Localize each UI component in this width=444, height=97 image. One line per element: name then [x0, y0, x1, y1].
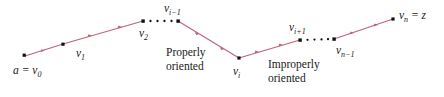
- caption-improperly-oriented: Improperly oriented: [268, 58, 320, 85]
- vertex-label-vnm1: vn−1: [336, 45, 355, 57]
- path-vector-graphic: [0, 0, 444, 97]
- dotted-segment-v2-vim1: [149, 20, 172, 22]
- caption-improperly-oriented-line1: Improperly: [268, 58, 320, 72]
- vertex-dot-vn: [391, 17, 394, 20]
- caption-improperly-oriented-line2: oriented: [268, 72, 320, 86]
- vertex-dot-vim1: [176, 19, 179, 22]
- vertex-label-vn: vn = z: [399, 10, 426, 22]
- vertex-dot-v0: [23, 54, 26, 57]
- vertex-label-v0: a = v0: [13, 65, 41, 77]
- segment-v1-v2: [63, 21, 143, 44]
- vertex-label-vip1: vi+1: [289, 22, 306, 34]
- vertex-dot-v1: [61, 43, 64, 46]
- vertex-label-vi: vi: [233, 66, 240, 78]
- vertex-dot-vnm1: [332, 37, 335, 40]
- caption-properly-oriented: Properly oriented: [166, 46, 206, 73]
- vertex-dot-v2: [141, 19, 144, 22]
- caption-properly-oriented-line2: oriented: [166, 60, 206, 74]
- polygonal-path-figure: a = v0 v1 v2 vi−1 vi vi+1 vn−1 vn = z Pr…: [0, 0, 444, 97]
- vertex-label-v1: v1: [76, 48, 85, 60]
- segment-vnm1-vn: [334, 19, 393, 39]
- vertex-dot-vip1: [298, 38, 301, 41]
- vertex-label-vim1: vi−1: [164, 3, 181, 15]
- vertex-label-v2: v2: [139, 28, 148, 40]
- vertex-dot-vi: [237, 56, 240, 59]
- segment-v0-v1: [25, 44, 63, 56]
- caption-properly-oriented-line1: Properly: [166, 46, 206, 60]
- dotted-segment-vip1-vnm1: [306, 38, 329, 41]
- segment-vi-vip1: [239, 40, 300, 58]
